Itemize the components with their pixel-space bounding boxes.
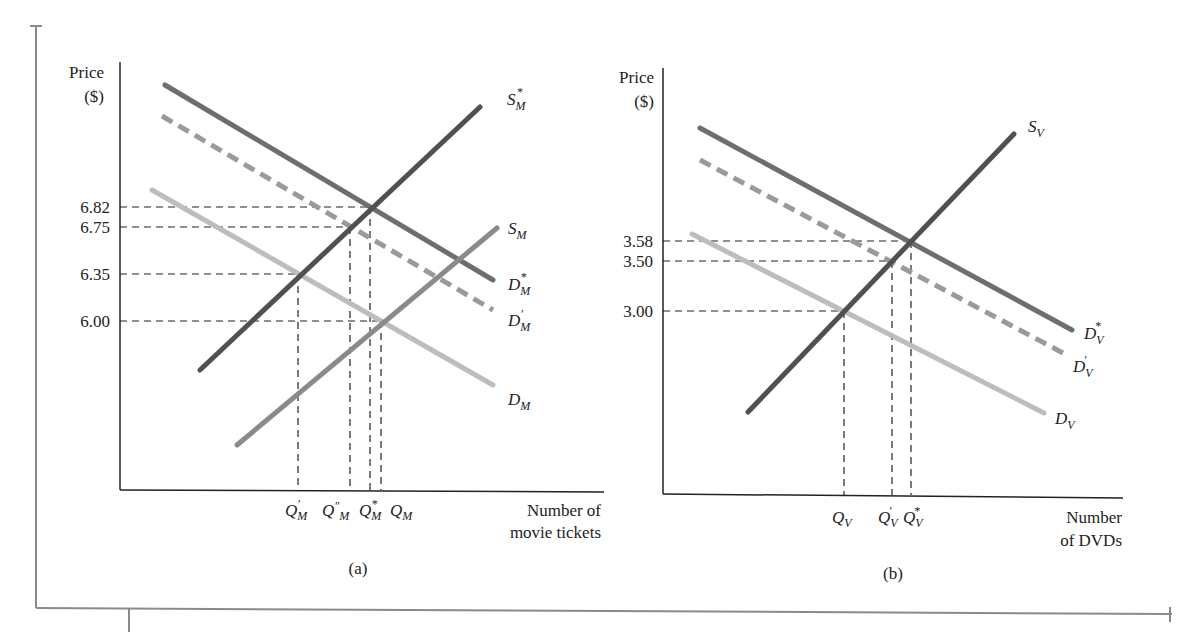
label-d-star-m: DM* [507,270,531,298]
label-d-prime-v: DV′ [1072,353,1094,380]
label-q-star-m: QM* [359,497,382,523]
tick-3-50: 3.50 [623,252,653,271]
panel-a-axes [120,62,604,492]
tick-6-82: 6.82 [80,198,110,217]
label-s-v: SV [1028,117,1046,140]
panel-a-y-unit: ($) [84,87,104,106]
curve-d-prime-m [162,116,493,310]
panel-b-axes [663,68,1123,498]
panel-a-x-label-line2: movie tickets [510,523,601,542]
label-d-v: DV [1054,409,1076,432]
panel-b-y-label: Price [619,68,654,87]
label-q-dprime-m: Q″M [322,499,350,523]
panel-b-x-label-line2: of DVDs [1060,531,1122,550]
label-s-m: SM [508,219,528,242]
label-d-star-v: DV* [1083,319,1105,347]
label-q-v: QV [832,508,853,530]
figure-canvas: Price ($) 6.82 6.75 6.35 6.00 SM* SM DM*… [0,0,1182,632]
panel-a: Price ($) 6.82 6.75 6.35 6.00 SM* SM DM*… [69,62,604,578]
panel-a-x-label-line1: Number of [527,501,601,520]
panel-a-y-label: Price [69,63,104,82]
panel-b: Price ($) 3.58 3.50 3.00 SV DV* DV′ DV Q… [619,68,1123,583]
tick-6-00: 6.00 [80,312,110,331]
panel-a-caption: (a) [349,559,368,578]
page-frame [30,26,1172,632]
label-q-star-v: QV* [903,504,924,530]
curve-s-star-m [200,107,480,370]
panel-b-y-unit: ($) [634,92,654,111]
curve-d-m [152,190,493,385]
curve-d-prime-v [700,160,1063,353]
curve-d-star-v [700,128,1072,330]
panel-b-caption: (b) [883,564,903,583]
label-d-prime-m: DM′ [507,307,531,334]
label-s-star-m: SM* [507,85,527,113]
label-d-m: DM [507,390,531,413]
label-q-m: QM [390,501,413,523]
tick-3-00: 3.00 [623,302,653,321]
panel-b-x-label-line1: Number [1066,508,1122,527]
label-q-prime-m: QM′ [285,497,308,523]
tick-6-35: 6.35 [80,265,110,284]
label-q-prime-v: QV′ [878,504,899,530]
tick-3-58: 3.58 [623,232,653,251]
tick-6-75: 6.75 [80,218,110,237]
